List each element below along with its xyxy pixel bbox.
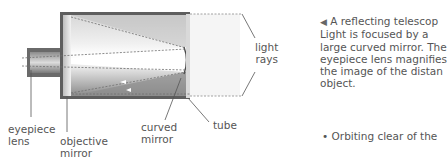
- main-tube: [60, 12, 190, 99]
- caption-line-3: large curved mirror. The: [320, 41, 420, 53]
- light-rays-label-line1: light: [255, 41, 278, 53]
- caption-line-6: object.: [320, 77, 420, 89]
- curved-mirror-label-line2: mirror: [141, 133, 177, 145]
- light-rays-label: light rays: [255, 41, 278, 65]
- objective-mirror-label-line1: objective: [60, 135, 108, 147]
- bullet-paragraph: • Orbiting clear of the: [322, 130, 437, 142]
- tube-label: tube: [213, 119, 237, 131]
- curved-mirror-label-line1: curved: [141, 121, 177, 133]
- bullet-text: Orbiting clear of the: [332, 130, 438, 142]
- eyepiece-lens-label: eyepiece lens: [8, 123, 55, 147]
- caption-line-2: Light is focused by a: [320, 28, 420, 40]
- bullet-icon: •: [322, 130, 328, 142]
- incoming-light-region: [190, 14, 240, 96]
- figure-caption: ◀ A reflecting telescop Light is focused…: [320, 15, 420, 90]
- left-pointer-icon: ◀: [320, 17, 327, 27]
- light-rays-label-line2: rays: [255, 53, 278, 65]
- eyepiece-lens-label-line2: lens: [8, 135, 55, 147]
- objective-mirror-label-line2: mirror: [60, 147, 108, 159]
- eyepiece-lens-label-line1: eyepiece: [8, 123, 55, 135]
- caption-line-1-text: A reflecting telescop: [330, 15, 438, 27]
- caption-line-5: the image of the distan: [320, 65, 420, 77]
- telescope-diagram: eyepiece lens objective mirror curved mi…: [0, 0, 300, 159]
- curved-mirror-label: curved mirror: [141, 121, 177, 145]
- caption-line-1: ◀ A reflecting telescop: [320, 15, 420, 28]
- objective-mirror-label: objective mirror: [60, 135, 108, 159]
- caption-line-4: eyepiece lens magnifies: [320, 53, 420, 65]
